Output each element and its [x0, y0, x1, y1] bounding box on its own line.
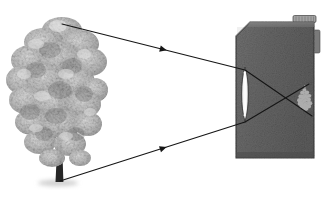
lens: [242, 67, 249, 121]
scene-canvas: [0, 0, 331, 200]
camera-body: [236, 16, 320, 159]
optics-diagram: Camera obscura light ray diagram Light r…: [0, 0, 331, 200]
camera-top-panel: [247, 22, 314, 27]
camera-base-edge: [236, 152, 314, 158]
